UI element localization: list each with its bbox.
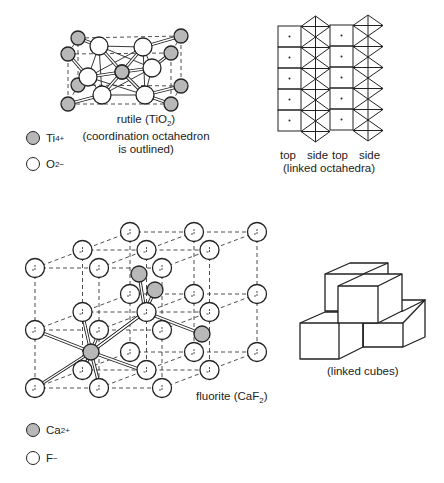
rutile-title: rutile (TiO2) <box>76 113 216 130</box>
ti-atom-center <box>115 65 129 79</box>
ti-atom <box>174 29 188 43</box>
rutile-caption-line3: is outlined) <box>76 143 216 156</box>
rutile-caption: rutile (TiO2) (coordination octahedron i… <box>76 113 216 156</box>
fluorite-caption: fluorite (CaF2) <box>196 390 268 407</box>
cubes-caption: (linked cubes) <box>327 365 399 378</box>
rutile-caption-line2: (coordination octahedron <box>76 130 216 143</box>
legend-ti: Ti4+ <box>26 131 64 145</box>
linked-cubes <box>300 263 425 359</box>
rutile-structure <box>61 29 188 111</box>
fluorite-structure <box>26 223 267 398</box>
ti-atom <box>174 79 188 93</box>
legend-o: O2− <box>26 157 64 171</box>
octahedron-center-dot <box>289 99 291 101</box>
ti-atom <box>164 97 178 111</box>
octahedron-center-dot <box>289 36 291 38</box>
figure-canvas <box>0 0 444 483</box>
legend-f: F− <box>26 451 58 465</box>
ca-atom <box>147 282 163 298</box>
octahedron-center-dot <box>289 120 291 122</box>
o-atom <box>143 59 161 77</box>
ca-atom <box>194 326 210 342</box>
o-atom <box>93 86 111 104</box>
octahedron-center-dot <box>341 119 343 121</box>
anion-swatch-icon <box>26 451 40 465</box>
cation-swatch-icon <box>26 423 40 437</box>
octahedron-center-dot <box>289 78 291 80</box>
ti-atom <box>164 46 178 60</box>
o-atom <box>79 68 97 86</box>
octahedron-center-dot <box>341 35 343 37</box>
cation-swatch-icon <box>26 131 40 145</box>
linked-octahedra <box>278 15 383 142</box>
octa-label-top-2: top <box>332 149 348 162</box>
octa-label-side-2: side <box>359 149 380 162</box>
o-atom <box>134 38 152 56</box>
octa-caption: (linked octahedra) <box>283 162 375 175</box>
octahedron-center-dot <box>341 56 343 58</box>
octahedron-center-dot <box>289 57 291 59</box>
octa-label-side-1: side <box>307 149 328 162</box>
ti-atom <box>61 97 75 111</box>
ca-atom <box>131 266 147 282</box>
cube-front-top <box>338 274 402 323</box>
ti-atom <box>71 31 85 45</box>
o-atom <box>90 37 108 55</box>
ti-atom <box>61 47 75 61</box>
octahedron-center-dot <box>341 77 343 79</box>
o-atom <box>136 86 154 104</box>
octahedron-center-dot <box>341 98 343 100</box>
legend-ca: Ca2+ <box>26 423 70 437</box>
anion-swatch-icon <box>26 157 40 171</box>
ca-atom <box>83 344 99 360</box>
octa-label-top-1: top <box>280 149 296 162</box>
